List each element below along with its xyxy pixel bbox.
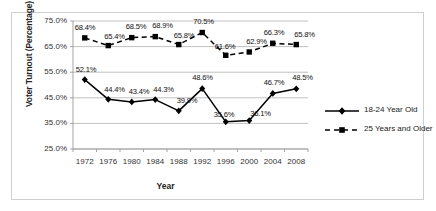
data-point-label: 65.8%	[174, 31, 195, 40]
data-point-label: 39.9%	[177, 96, 198, 105]
chart-container: Voter Turnout (Percentage) Year 75.0%65.…	[0, 0, 436, 211]
x-axis-title: Year	[12, 181, 319, 191]
legend-marker-square-icon	[324, 122, 360, 138]
data-point-label: 35.6%	[214, 110, 235, 119]
plot-area	[12, 13, 332, 178]
data-point-label: 52.1%	[76, 65, 97, 74]
data-point-label: 48.5%	[292, 73, 313, 82]
chart-frame: Voter Turnout (Percentage) Year 75.0%65.…	[11, 12, 424, 200]
legend-marker-diamond-icon	[324, 103, 360, 119]
chart-legend: 18-24 Year Old 25 Years and Older	[324, 103, 424, 141]
data-point-label: 65.4%	[104, 32, 125, 41]
data-point-label: 44.3%	[153, 85, 174, 94]
data-point-label: 46.7%	[264, 78, 285, 87]
data-point-label: 65.8%	[294, 30, 315, 39]
data-point-label: 48.6%	[192, 73, 213, 82]
data-point-label: 36.1%	[250, 109, 271, 118]
data-point-label: 68.5%	[126, 22, 147, 31]
data-point-label: 62.9%	[246, 37, 267, 46]
data-point-label: 68.9%	[152, 21, 173, 30]
data-point-label: 44.4%	[104, 85, 125, 94]
legend-label-series-1: 25 Years and Older	[364, 124, 433, 133]
data-point-label: 66.3%	[264, 28, 285, 37]
legend-item-series-1: 25 Years and Older	[324, 122, 424, 141]
data-point-label: 68.4%	[75, 23, 96, 32]
legend-item-series-0: 18-24 Year Old	[324, 103, 424, 122]
legend-label-series-0: 18-24 Year Old	[364, 105, 417, 114]
data-point-label: 61.6%	[215, 42, 236, 51]
data-point-label: 70.5%	[193, 17, 214, 26]
data-point-label: 43.4%	[129, 87, 150, 96]
